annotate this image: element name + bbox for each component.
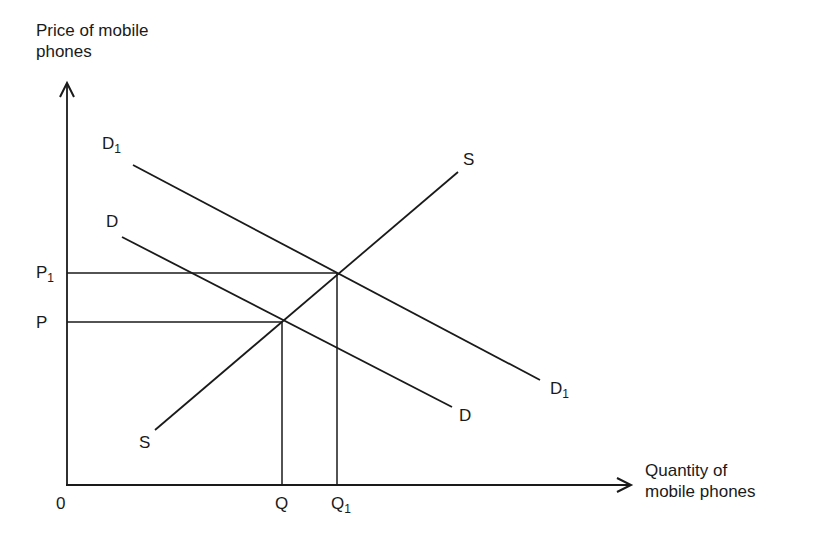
- x-axis-title-line1: Quantity of: [645, 460, 756, 481]
- price-p1-label: P1: [36, 262, 54, 289]
- y-axis-title-line2: phones: [36, 41, 148, 62]
- q1-sub: 1: [344, 502, 351, 516]
- y-axis-title-line1: Price of mobile: [36, 20, 148, 41]
- y-axis-title: Price of mobile phones: [36, 20, 148, 62]
- quantity-q-label: Q: [275, 493, 288, 514]
- p1-main: P: [36, 263, 47, 282]
- p1-sub: 1: [47, 271, 54, 285]
- origin-label: 0: [56, 493, 65, 514]
- d1-top-main: D: [102, 134, 114, 153]
- x-axis-title-line2: mobile phones: [645, 481, 756, 502]
- supply-curve-s: [155, 172, 458, 430]
- d-bottom-label: D: [459, 405, 471, 426]
- d1-bottom-sub: 1: [562, 387, 569, 401]
- quantity-q1-label: Q1: [331, 493, 351, 520]
- price-p-label: P: [36, 312, 47, 333]
- s-bottom-label: S: [139, 432, 150, 453]
- x-axis-title: Quantity of mobile phones: [645, 460, 756, 502]
- s-top-label: S: [463, 149, 474, 170]
- d1-top-sub: 1: [114, 142, 121, 156]
- d1-bottom-label: D1: [550, 378, 569, 405]
- d1-bottom-main: D: [550, 379, 562, 398]
- q1-main: Q: [331, 494, 344, 513]
- d-top-label: D: [106, 211, 118, 232]
- d1-top-label: D1: [102, 133, 121, 160]
